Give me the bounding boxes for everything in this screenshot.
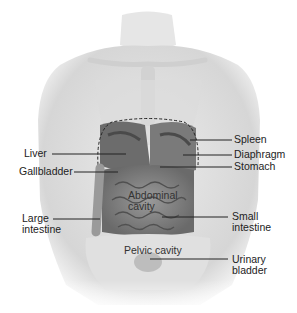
label-gallbladder: Gallbladder (19, 166, 73, 177)
colon (96, 168, 100, 232)
label-large-intestine-2: intestine (22, 224, 61, 235)
label-spleen: Spleen (234, 134, 267, 145)
label-small-intestine-2: intestine (232, 222, 271, 233)
liver (100, 122, 150, 171)
label-abdominal-cavity-2: cavity (128, 201, 155, 212)
label-pelvic-cavity: Pelvic cavity (124, 245, 182, 256)
label-stomach: Stomach (234, 161, 275, 172)
label-urinary-bladder-2: bladder (232, 265, 267, 276)
neck (120, 12, 176, 51)
label-diaphragm: Diaphragm (234, 149, 285, 160)
label-liver: Liver (24, 148, 47, 159)
